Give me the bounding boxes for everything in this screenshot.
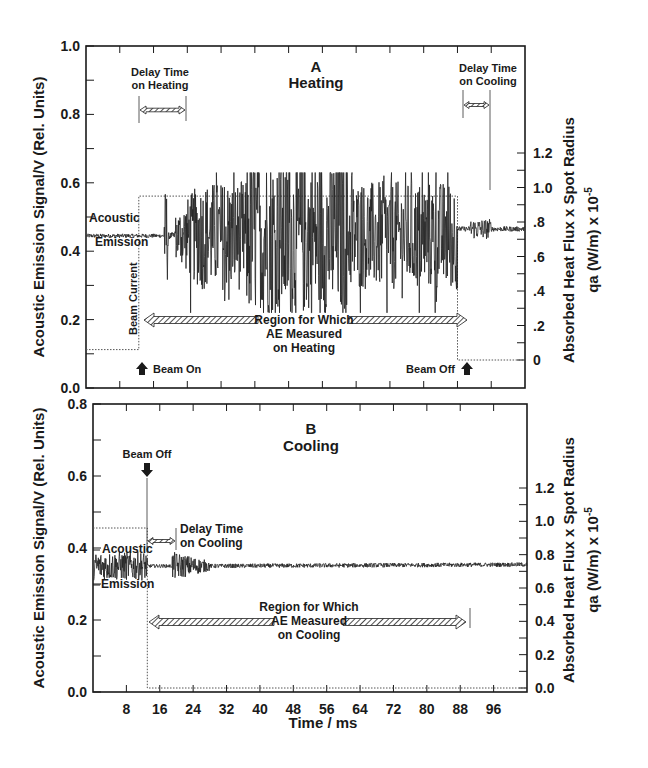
x-tick-label: 72 (386, 701, 402, 717)
panel-a-heating: 0.00.20.40.60.81.0 0.2.4.6.81.01.2 A Hea… (30, 38, 601, 396)
left-y-tick-label: 0.0 (61, 380, 81, 396)
panel-a-acoustic-emission-trace (87, 173, 525, 313)
panel-b-region-label-1: Region for Which (259, 600, 358, 614)
figure: 0.00.20.40.60.81.0 0.2.4.6.81.01.2 A Hea… (0, 0, 648, 768)
region-cooling-left-arrow-icon (149, 615, 274, 629)
panel-b-right-y-axis-title-2: qa (W/m) x 10-5 (583, 507, 601, 613)
panel-a-delay-heating-label-2: on Heating (132, 79, 189, 91)
panel-b-delay-cooling-double-arrow-icon (148, 538, 175, 545)
panel-a-region-label-1: Region for Which (254, 313, 353, 327)
x-tick-label: 16 (152, 701, 168, 717)
x-tick-label: 88 (452, 701, 468, 717)
panel-b-title: Cooling (283, 437, 339, 454)
panel-b-left-y-ticks: 0.00.20.40.60.8 (68, 396, 101, 700)
right-y-tick-label: 0.4 (535, 613, 555, 629)
region-heating-right-arrow-icon (349, 313, 467, 327)
panel-a-delay-cooling-label-1: Delay Time (459, 62, 517, 74)
right-y-tick-label: 1.0 (535, 513, 555, 529)
panel-b-right-y-axis-title-1: Absorbed Heat Flux x Spot Radius (560, 437, 577, 683)
right-y-tick-label: 0.8 (535, 547, 555, 563)
left-y-tick-label: 0.2 (61, 312, 81, 328)
panel-b-cooling: 81624324048566472808896 0.00.20.40.60.8 … (30, 396, 601, 731)
panel-a-letter: A (311, 58, 322, 75)
panel-a-region-label-2: AE Measured (266, 327, 342, 341)
panel-a-delay-heating-label-1: Delay Time (131, 66, 189, 78)
right-y-tick-label: .4 (533, 283, 545, 299)
panel-a-beam-current-label: Beam Current (127, 262, 139, 335)
delay-heating-double-arrow-icon (140, 106, 185, 114)
right-y-tick-label: 1.2 (533, 145, 553, 161)
right-y-tick-label: .2 (533, 318, 545, 334)
region-heating-left-arrow-icon (144, 313, 258, 327)
panel-b-letter: B (306, 420, 317, 437)
right-y-tick-label: .6 (533, 249, 545, 265)
left-y-tick-label: 0.0 (68, 684, 88, 700)
panel-a-left-y-axis-title: Acoustic Emission Signal/V (Rel. Units) (30, 77, 47, 358)
panel-a-right-y-axis-title-1: Absorbed Heat Flux x Spot Radius (560, 117, 577, 363)
panel-b-acoustic-label: Acoustic (102, 542, 153, 556)
panel-b-beam-off-label: Beam Off (123, 448, 172, 460)
panel-a-region-label-3: on Heating (273, 341, 335, 355)
panel-b-emission-label: Emission (101, 577, 154, 591)
panel-b-region-label-3: on Cooling (278, 628, 341, 642)
right-y-tick-label: 1.0 (533, 180, 553, 196)
figure-canvas: 0.00.20.40.60.81.0 0.2.4.6.81.01.2 A Hea… (0, 0, 648, 768)
right-y-tick-label: .8 (533, 214, 545, 230)
left-y-tick-label: 1.0 (61, 38, 81, 54)
left-y-tick-label: 0.2 (68, 612, 88, 628)
panel-a-right-y-axis-title-2: qa (W/m) x 10-5 (583, 187, 601, 293)
x-tick-label: 80 (419, 701, 435, 717)
right-y-tick-label: 0 (533, 352, 541, 368)
panel-a-acoustic-label: Acoustic (89, 211, 140, 225)
panel-b-delay-cooling-label-2: on Cooling (180, 536, 243, 550)
panel-a-title: Heating (288, 74, 343, 91)
right-y-tick-label: 0.0 (535, 680, 555, 696)
x-axis-title: Time / ms (289, 714, 358, 731)
right-y-tick-label: 0.2 (535, 647, 555, 663)
panel-a-right-y-ticks: 0.2.4.6.81.01.2 (517, 145, 553, 368)
left-y-tick-label: 0.8 (61, 106, 81, 122)
x-tick-label: 8 (122, 701, 130, 717)
x-tick-label: 40 (252, 701, 268, 717)
left-y-tick-label: 0.6 (61, 175, 81, 191)
right-y-tick-label: 0.6 (535, 580, 555, 596)
left-y-tick-label: 0.4 (68, 540, 88, 556)
panel-a-emission-label: Emission (95, 235, 148, 249)
beam-off-down-arrow-icon (141, 463, 153, 477)
left-y-tick-label: 0.6 (68, 468, 88, 484)
right-y-tick-label: 1.2 (535, 480, 555, 496)
delay-cooling-double-arrow-icon (464, 102, 489, 109)
panel-a-delay-cooling-label-2: on Cooling (459, 75, 516, 87)
panel-b-delay-cooling-label-1: Delay Time (180, 522, 243, 536)
panel-b-left-y-axis-title: Acoustic Emission Signal/V (Rel. Units) (30, 408, 47, 689)
x-tick-label: 96 (486, 701, 502, 717)
beam-off-arrow-icon (461, 362, 473, 375)
x-tick-label: 24 (185, 701, 201, 717)
left-y-tick-label: 0.4 (61, 243, 81, 259)
beam-on-arrow-icon (136, 362, 148, 375)
panel-b-acoustic-emission-trace (94, 552, 527, 581)
panel-b-right-y-ticks: 0.00.20.40.60.81.01.2 (519, 480, 555, 696)
x-tick-label: 32 (219, 701, 235, 717)
panel-a-beam-on-label: Beam On (153, 363, 202, 375)
panel-b-region-label-2: AE Measured (271, 614, 347, 628)
left-y-tick-label: 0.8 (68, 396, 88, 412)
panel-a-beam-off-label: Beam Off (406, 363, 455, 375)
region-cooling-right-arrow-icon (343, 615, 466, 629)
